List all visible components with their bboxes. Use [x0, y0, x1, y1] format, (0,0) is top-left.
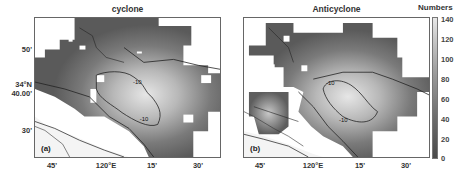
colorbar-tick-140: 140 — [441, 15, 454, 24]
y-tick-30: 30' — [0, 126, 32, 135]
colorbar-tick-120: 120 — [441, 35, 454, 44]
heatmap-b: -10 -10 — [244, 18, 429, 157]
y-tick-40: 40.00' — [0, 89, 32, 98]
colorbar-tick-60: 60 — [441, 95, 449, 104]
colorbar-tick-20: 20 — [441, 135, 449, 144]
x-tick-a-120e: 120°E — [96, 161, 117, 170]
x-tick-a-45: 45' — [47, 161, 57, 170]
contour-label: -10 — [133, 79, 142, 85]
contour-label: -10 — [140, 116, 149, 122]
colorbar-tick-100: 100 — [441, 55, 454, 64]
heatmap-a: -10 -10 — [35, 18, 220, 157]
y-tick-34n: 34°N — [0, 80, 32, 89]
contour-label: -10 — [339, 118, 348, 124]
x-tick-b-120e: 120°E — [303, 161, 324, 170]
x-tick-b-15: 15' — [355, 161, 365, 170]
x-tick-a-15: 15' — [147, 161, 157, 170]
colorbar-tick-0: 0 — [441, 154, 445, 163]
colorbar-title: Numbers — [418, 3, 453, 12]
y-tick-50: 50' — [0, 45, 32, 54]
x-tick-b-30: 30' — [401, 161, 411, 170]
x-tick-b-45: 45' — [255, 161, 265, 170]
panel-b-anticyclone-map: -10 -10 (b) — [243, 17, 430, 158]
panel-a-title: cyclone — [34, 4, 221, 14]
x-tick-a-30: 30' — [193, 161, 203, 170]
colorbar — [432, 17, 438, 159]
contour-label: -10 — [326, 80, 335, 86]
panel-b-label: (b) — [250, 144, 260, 153]
colorbar-tick-80: 80 — [441, 75, 449, 84]
panel-a-cyclone-map: -10 -10 (a) — [34, 17, 221, 158]
panel-b-title: Anticyclone — [243, 4, 430, 14]
panel-a-label: (a) — [41, 144, 51, 153]
colorbar-tick-40: 40 — [441, 115, 449, 124]
